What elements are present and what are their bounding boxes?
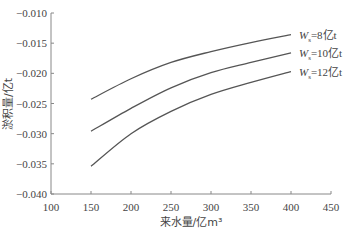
x-tick-label: 250 — [163, 201, 180, 213]
x-tick-label: 350 — [243, 201, 260, 213]
series-lines — [91, 35, 291, 167]
x-tick-label: 300 — [203, 201, 220, 213]
series-line-3 — [91, 72, 291, 167]
y-tick-label: −0.040 — [16, 188, 47, 200]
series-line-2 — [91, 53, 291, 131]
axes: 100150200250300350400450−0.010−0.015−0.0… — [16, 7, 340, 213]
y-tick-label: −0.020 — [16, 67, 47, 79]
y-tick-label: −0.010 — [16, 7, 47, 19]
y-axis-title: 淤积量/亿t — [2, 77, 15, 130]
y-tick-label: −0.025 — [16, 98, 47, 110]
x-tick-label: 150 — [83, 201, 100, 213]
x-tick-label: 450 — [323, 201, 340, 213]
y-tick-label: −0.030 — [16, 128, 47, 140]
x-tick-label: 100 — [43, 201, 60, 213]
x-tick-label: 400 — [283, 201, 300, 213]
x-axis-title: 来水量/亿m³ — [160, 216, 223, 229]
x-tick-label: 200 — [123, 201, 140, 213]
sedimentation-chart: 100150200250300350400450−0.010−0.015−0.0… — [0, 0, 349, 231]
series-label-2: Ws=10亿t — [299, 47, 342, 62]
y-tick-label: −0.035 — [16, 158, 47, 170]
y-tick-label: −0.015 — [16, 37, 47, 49]
series-label-1: Ws=8亿t — [299, 29, 337, 44]
series-labels: Ws=8亿tWs=10亿tWs=12亿t — [299, 29, 342, 81]
series-line-1 — [91, 35, 291, 100]
series-label-3: Ws=12亿t — [299, 66, 342, 81]
